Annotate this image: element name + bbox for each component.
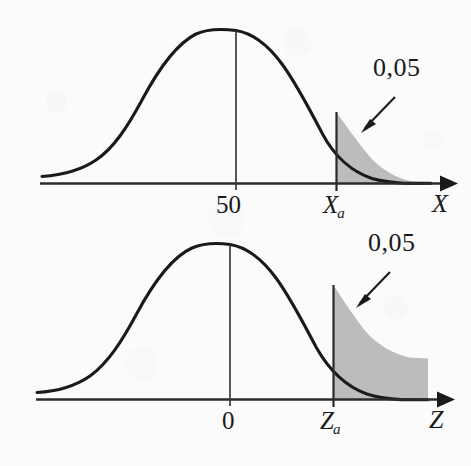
- critical-value-symbol-upper: X: [323, 191, 338, 218]
- chart-lower-z-distribution: 0,05 0 Za Z: [0, 233, 471, 466]
- tail-area-label-lower: 0,05: [368, 230, 416, 256]
- figure-canvas: 0,05 50 Xa X 0,05 0 Za: [0, 0, 471, 466]
- critical-value-label-lower: Za: [320, 408, 340, 437]
- x-axis-label-upper: X: [432, 191, 448, 217]
- shaded-tail-area-upper: [337, 113, 432, 184]
- critical-value-subscript-lower: a: [333, 421, 341, 437]
- mean-tick-label-lower: 0: [222, 408, 235, 433]
- critical-value-subscript-upper: a: [337, 205, 345, 221]
- x-axis-label-lower: Z: [429, 407, 443, 433]
- critical-value-symbol-lower: Z: [320, 407, 334, 434]
- lower-chart-graphic: [0, 233, 471, 466]
- critical-value-label-upper: Xa: [323, 192, 345, 221]
- annotation-arrowhead-upper: [361, 119, 376, 133]
- mean-tick-label-upper: 50: [216, 192, 241, 217]
- tail-area-label-upper: 0,05: [373, 55, 421, 81]
- annotation-arrowhead-lower: [356, 294, 371, 308]
- chart-upper-x-distribution: 0,05 50 Xa X: [0, 0, 471, 233]
